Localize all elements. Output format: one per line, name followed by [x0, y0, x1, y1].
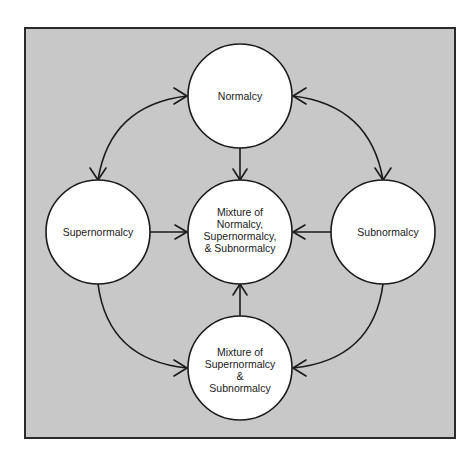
- node-label: Supernormalcy: [205, 358, 276, 370]
- node-mixture-all: Mixture of Normalcy, Supernormalcy, & Su…: [188, 180, 292, 284]
- node-label: &: [236, 370, 243, 382]
- node-normalcy: Normalcy: [188, 44, 292, 148]
- node-mixture-super-sub: Mixture of Supernormalcy & Subnormalcy: [188, 316, 292, 420]
- node-label: & Subnormalcy: [204, 242, 276, 254]
- node-label: Subnormalcy: [209, 382, 271, 394]
- node-label: Normalcy,: [217, 218, 263, 230]
- node-label: Subnormalcy: [357, 226, 419, 238]
- node-label: Mixture of: [217, 206, 263, 218]
- node-label: Mixture of: [217, 346, 263, 358]
- state-diagram: Normalcy Mixture of Normalcy, Supernorma…: [0, 0, 476, 456]
- node-subnormalcy: Subnormalcy: [331, 180, 435, 284]
- node-supernormalcy: Supernormalcy: [46, 180, 150, 284]
- node-label: Supernormalcy,: [204, 230, 277, 242]
- node-label: Supernormalcy: [63, 226, 134, 238]
- node-label: Normalcy: [218, 90, 263, 102]
